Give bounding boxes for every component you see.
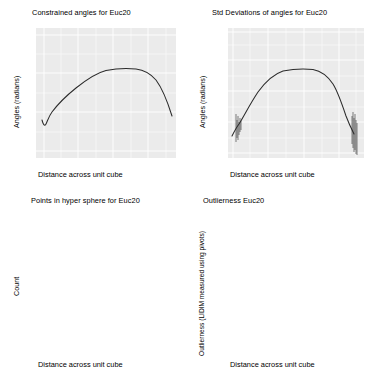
panel-title: Outlierness Euc20 [203, 196, 264, 205]
panel-title: Constrained angles for Euc20 [32, 8, 131, 17]
x-axis-label: Distance across unit cube [38, 170, 123, 179]
plot-area [228, 28, 364, 158]
y-axis-label: Outlierness (LIDIM measured using pivots… [198, 231, 206, 356]
panel-title: Points in hyper sphere for Euc20 [31, 196, 140, 205]
x-axis-label: Distance across unit cube [230, 360, 315, 369]
x-axis-label: Distance across unit cube [230, 170, 315, 179]
y-axis-label: Count [13, 277, 21, 296]
y-axis-label: Angles (radians) [199, 76, 207, 128]
plot-area [36, 28, 176, 158]
x-axis-label: Distance across unit cube [38, 360, 123, 369]
panel-std-deviations-angles: Std Deviations of angles for Euc20 Angle… [186, 0, 372, 188]
panel-constrained-angles: Constrained angles for Euc20 Angles (rad… [0, 0, 186, 188]
y-axis-label: Angles (radians) [13, 76, 21, 128]
panel-outlierness: Outlierness Euc20 Outlierness (LIDIM mea… [186, 188, 372, 376]
figure-canvas: Constrained angles for Euc20 Angles (rad… [0, 0, 373, 377]
panel-title: Std Deviations of angles for Euc20 [212, 8, 327, 17]
panel-points-in-hyper-sphere: Points in hyper sphere for Euc20 Count [0, 188, 186, 376]
